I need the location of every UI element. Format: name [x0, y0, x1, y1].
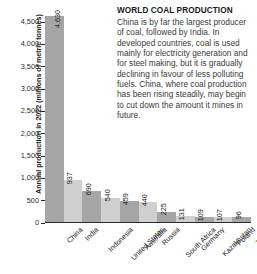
bar-value-label: 109 [197, 209, 204, 221]
bar-value-label: 690 [85, 183, 92, 195]
x-axis-line [45, 222, 251, 223]
y-axis-tick: 3,500 [0, 62, 45, 72]
bar-fill [82, 191, 101, 222]
y-axis-tick: 2,000 [0, 129, 45, 139]
y-axis-tick: 4,500 [0, 17, 45, 27]
article-headline: WORLD COAL PRODUCTION [117, 6, 255, 16]
bar: 4,630 [45, 16, 64, 221]
bar: 540 [101, 198, 120, 222]
y-axis-tick: 1,500 [0, 151, 45, 161]
bar: 690 [82, 191, 101, 222]
x-axis-category-label: Poland [235, 226, 256, 247]
bar: 109 [195, 217, 214, 222]
y-axis-tick: 3,000 [0, 84, 45, 94]
bar-value-label: 225 [160, 204, 167, 216]
x-axis-category-label: India [84, 226, 100, 242]
article-body: China is by far the largest producer of … [117, 17, 255, 120]
y-axis-tick: 2,500 [0, 106, 45, 116]
article-block: WORLD COAL PRODUCTION China is by far th… [117, 6, 255, 120]
bar-value-label: 459 [122, 193, 129, 205]
y-axis-tick: 1,000 [0, 173, 45, 183]
bar-value-label: 4,630 [54, 10, 61, 28]
bar: 459 [120, 201, 139, 221]
bar-value-label: 96 [234, 211, 241, 219]
y-axis-tick: 0 [0, 218, 45, 228]
x-axis-category-label: Indonesia [107, 226, 134, 253]
y-axis-tick: 4,000 [0, 39, 45, 49]
bar: 440 [139, 202, 158, 222]
bar-value-label: 107 [216, 209, 223, 221]
bar: 96 [232, 217, 251, 221]
bar-value-label: 131 [178, 208, 185, 220]
x-axis-category-label: China [66, 226, 85, 245]
bar: 225 [157, 212, 176, 222]
bar: 937 [64, 180, 83, 222]
bar-value-label: 440 [141, 194, 148, 206]
bar-value-label: 540 [103, 190, 110, 202]
bar-fill [45, 16, 64, 221]
bar: 131 [176, 216, 195, 222]
y-axis-tick: 500 [0, 196, 45, 206]
bar-fill [64, 180, 83, 222]
bar: 107 [214, 217, 233, 222]
bar-value-label: 937 [66, 172, 73, 184]
bar-fill [101, 198, 120, 222]
